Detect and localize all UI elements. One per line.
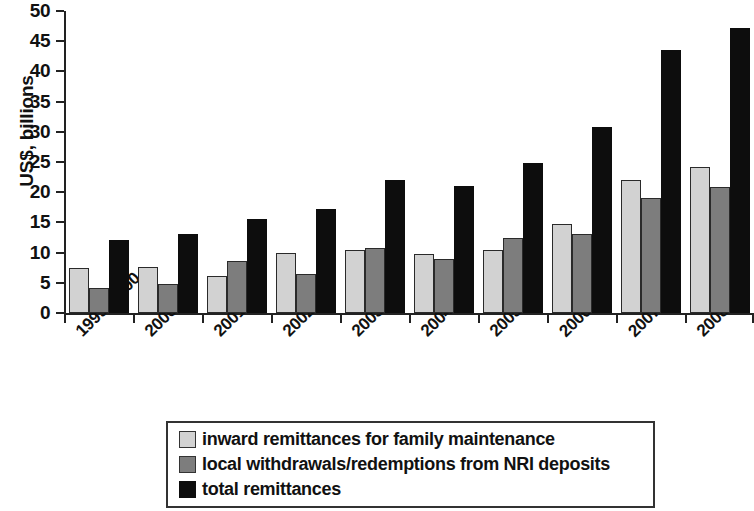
x-tick-2005–06 — [478, 315, 480, 323]
bar-group-2003–04 — [340, 11, 409, 313]
y-tick-30 — [56, 131, 64, 133]
x-tick-2002–03 — [271, 315, 273, 323]
bar-series-1-2008–09 — [710, 187, 730, 313]
bar-series-1-2005–06 — [503, 238, 523, 314]
x-tick-2001–02 — [202, 315, 204, 323]
y-tick-label-0: 0 — [8, 302, 50, 324]
bar-group-2002–03 — [271, 11, 340, 313]
bar-series-1-1999–2000 — [89, 288, 109, 313]
bar-series-0-1999–2000 — [69, 268, 89, 313]
y-tick-50 — [56, 10, 64, 12]
x-tick-2008–09 — [685, 315, 687, 323]
y-tick-label-45: 45 — [8, 30, 50, 52]
bar-series-2-1999–2000 — [109, 240, 129, 313]
y-tick-25 — [56, 161, 64, 163]
bar-series-2-2006–07 — [592, 127, 612, 313]
y-tick-20 — [56, 191, 64, 193]
bar-series-0-2004–05 — [414, 254, 434, 313]
x-tick-1999–2000 — [64, 315, 66, 323]
legend: inward remittances for family maintenanc… — [166, 421, 655, 508]
bar-group-2000–01 — [133, 11, 202, 313]
bar-series-0-2008–09 — [690, 167, 710, 313]
bar-series-1-2001–02 — [227, 261, 247, 313]
bar-group-2004–05 — [409, 11, 478, 313]
bar-series-1-2006–07 — [572, 234, 592, 313]
bar-series-1-2000–01 — [158, 284, 178, 313]
bar-group-2006–07 — [547, 11, 616, 313]
bar-series-0-2003–04 — [345, 250, 365, 313]
y-tick-label-35: 35 — [8, 91, 50, 113]
x-tick-2004–05 — [409, 315, 411, 323]
y-tick-label-50: 50 — [8, 0, 50, 22]
bar-series-2-2002–03 — [316, 209, 336, 313]
legend-item-total-remittances: total remittances — [179, 477, 341, 502]
legend-item-inward-remittances: inward remittances for family maintenanc… — [179, 427, 555, 452]
y-tick-label-25: 25 — [8, 151, 50, 173]
bar-series-2-2008–09 — [730, 28, 750, 313]
y-tick-label-10: 10 — [8, 242, 50, 264]
bar-group-2005–06 — [478, 11, 547, 313]
legend-swatch-icon-series-0 — [179, 431, 196, 448]
bar-series-0-2007–08 — [621, 180, 641, 313]
bar-series-1-2007–08 — [641, 198, 661, 313]
bar-series-2-2005–06 — [523, 163, 543, 313]
bar-series-0-2006–07 — [552, 224, 572, 313]
y-tick-label-15: 15 — [8, 211, 50, 233]
bar-group-2001–02 — [202, 11, 271, 313]
y-tick-label-5: 5 — [8, 272, 50, 294]
bar-group-1999–2000 — [64, 11, 133, 313]
x-tick-2003–04 — [340, 315, 342, 323]
y-tick-5 — [56, 282, 64, 284]
bar-series-1-2003–04 — [365, 248, 385, 313]
bar-series-2-2000–01 — [178, 234, 198, 313]
bar-chart: US$, billions 05101520253035404550 1999–… — [0, 0, 754, 511]
y-tick-45 — [56, 40, 64, 42]
bar-series-0-2002–03 — [276, 253, 296, 313]
bar-series-0-2005–06 — [483, 250, 503, 313]
y-tick-label-30: 30 — [8, 121, 50, 143]
bar-group-2007–08 — [616, 11, 685, 313]
legend-swatch-icon-series-2 — [179, 481, 196, 498]
legend-swatch-icon-series-1 — [179, 456, 196, 473]
bar-series-2-2004–05 — [454, 186, 474, 313]
bar-series-1-2004–05 — [434, 259, 454, 313]
plot-area — [64, 11, 754, 313]
bar-series-2-2003–04 — [385, 180, 405, 313]
y-tick-label-20: 20 — [8, 181, 50, 203]
x-tick-2006–07 — [547, 315, 549, 323]
y-tick-0 — [56, 312, 64, 314]
bar-series-2-2007–08 — [661, 50, 681, 313]
y-tick-10 — [56, 252, 64, 254]
x-tick-2000–01 — [133, 315, 135, 323]
y-tick-35 — [56, 101, 64, 103]
legend-label-series-0: inward remittances for family maintenanc… — [202, 429, 555, 450]
x-tick-2007–08 — [616, 315, 618, 323]
y-tick-40 — [56, 70, 64, 72]
bar-series-0-2001–02 — [207, 276, 227, 313]
y-tick-label-40: 40 — [8, 60, 50, 82]
bar-series-0-2000–01 — [138, 267, 158, 313]
legend-label-series-2: total remittances — [202, 479, 341, 500]
bar-series-1-2002–03 — [296, 274, 316, 313]
legend-item-local-withdrawals: local withdrawals/redemptions from NRI d… — [179, 452, 610, 477]
bar-group-2008–09 — [685, 11, 754, 313]
legend-label-series-1: local withdrawals/redemptions from NRI d… — [202, 454, 610, 475]
y-tick-15 — [56, 221, 64, 223]
bar-series-2-2001–02 — [247, 219, 267, 313]
